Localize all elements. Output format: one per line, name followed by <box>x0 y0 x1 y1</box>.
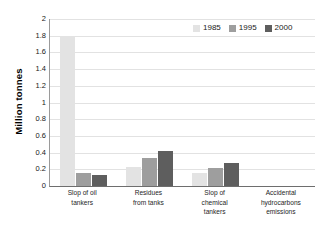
bar <box>142 158 157 186</box>
legend-swatch-icon <box>229 25 236 32</box>
y-tick-label: 1 <box>42 99 46 107</box>
bar-group <box>249 19 315 186</box>
y-tick-label: 0.4 <box>36 149 46 157</box>
y-tick-label: 0.6 <box>36 132 46 140</box>
y-tick-label: 1.6 <box>36 49 46 57</box>
legend-item: 2000 <box>265 24 293 32</box>
y-tick-label: 1.2 <box>36 82 46 90</box>
bar-group <box>116 19 182 186</box>
y-tick-label: 0 <box>42 182 46 190</box>
y-tick-label: 0.2 <box>36 166 46 174</box>
bar <box>126 167 141 186</box>
bar-chart: Million tonnes 21.81.61.41.210.80.60.40.… <box>0 0 329 228</box>
y-tick-label: 0.8 <box>36 115 46 123</box>
bar <box>60 36 75 186</box>
legend-label: 2000 <box>275 24 293 32</box>
bar <box>192 173 207 186</box>
x-category-label: Residuesfrom tanks <box>115 188 181 217</box>
y-axis-title: Million tonnes <box>13 42 24 162</box>
chart-legend: 198519952000 <box>193 24 292 32</box>
bar <box>208 168 223 186</box>
x-category-label: Accidentalhydrocarbonsemissions <box>248 188 314 217</box>
y-tick-label: 1.4 <box>36 65 46 73</box>
legend-label: 1995 <box>239 24 257 32</box>
bar-group <box>183 19 249 186</box>
bar <box>224 163 239 186</box>
y-tick-label: 1.8 <box>36 32 46 40</box>
bar <box>92 175 107 186</box>
bar <box>158 151 173 186</box>
bar-group <box>50 19 116 186</box>
legend-item: 1985 <box>193 24 221 32</box>
x-category-label: Slop of oiltankers <box>49 188 115 217</box>
bar <box>76 173 91 186</box>
legend-label: 1985 <box>203 24 221 32</box>
legend-item: 1995 <box>229 24 257 32</box>
x-category-label: Slop ofchemicaltankers <box>182 188 248 217</box>
bars-layer <box>50 19 315 186</box>
x-axis-labels: Slop of oiltankersResiduesfrom tanksSlop… <box>49 188 314 217</box>
legend-swatch-icon <box>265 25 272 32</box>
plot-area: 21.81.61.41.210.80.60.40.20 <box>49 19 315 187</box>
y-tick-label: 2 <box>42 15 46 23</box>
legend-swatch-icon <box>193 25 200 32</box>
